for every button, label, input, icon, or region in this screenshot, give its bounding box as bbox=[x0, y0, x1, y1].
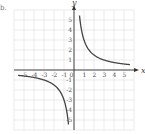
x-axis-arrow-icon bbox=[134, 68, 139, 72]
y-tick-label: 3 bbox=[68, 36, 72, 43]
y-tick-label: 5 bbox=[68, 16, 72, 23]
x-axis-label: x bbox=[141, 66, 145, 75]
y-tick-label: 4 bbox=[68, 26, 72, 33]
x-tick-label: 3 bbox=[103, 71, 107, 78]
y-tick-label: -2 bbox=[66, 86, 72, 93]
x-tick-label: 4 bbox=[113, 71, 117, 78]
x-tick-label: 1 bbox=[83, 71, 87, 78]
y-tick-label: 1 bbox=[68, 56, 72, 63]
y-tick-label: -3 bbox=[66, 96, 72, 103]
y-tick-label: 2 bbox=[68, 46, 72, 53]
x-tick-label: 2 bbox=[93, 71, 97, 78]
hyperbola-chart: xy -5-4-3-2-101234554321-1-2-3-4-5 bbox=[0, 0, 145, 134]
y-tick-label: -1 bbox=[66, 76, 72, 83]
x-tick-label: -4 bbox=[32, 71, 38, 78]
x-tick-label: -2 bbox=[52, 71, 58, 78]
x-tick-label: -3 bbox=[42, 71, 48, 78]
x-tick-label: 5 bbox=[123, 71, 127, 78]
y-axis-label: y bbox=[71, 0, 77, 7]
